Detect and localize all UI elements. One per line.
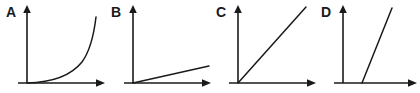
panel-c-x-axis-arrowhead xyxy=(307,79,316,87)
four-graph-figure: A B C D xyxy=(0,0,420,93)
panel-b-curve xyxy=(133,66,209,83)
panel-a: A xyxy=(6,4,105,87)
panel-d-y-axis-arrowhead xyxy=(339,5,347,13)
panel-d: D xyxy=(321,4,417,87)
panel-a-curve xyxy=(27,17,96,83)
panel-b-y-axis-arrowhead xyxy=(129,5,137,13)
panel-c-y-axis-arrowhead xyxy=(234,5,242,13)
panel-a-y-axis-arrowhead xyxy=(23,5,31,13)
panel-d-label: D xyxy=(321,4,331,20)
panel-c-curve xyxy=(238,7,306,83)
panel-c: C xyxy=(216,4,316,87)
panel-b-label: B xyxy=(111,4,121,20)
panel-a-label: A xyxy=(6,4,16,20)
figure-canvas: A B C D xyxy=(0,0,420,93)
panel-c-label: C xyxy=(216,4,226,20)
panel-d-x-axis-arrowhead xyxy=(408,79,417,87)
panel-d-curve xyxy=(362,8,392,83)
panel-a-x-axis-arrowhead xyxy=(96,79,105,87)
panel-b-x-axis-arrowhead xyxy=(202,79,211,87)
panel-b: B xyxy=(111,4,211,87)
